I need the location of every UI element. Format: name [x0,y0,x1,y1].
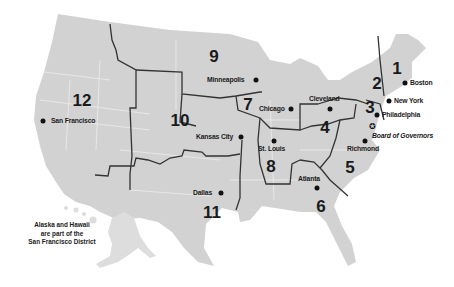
city-dot-dallas [219,191,224,196]
city-label-boston: Boston [410,79,432,87]
city-label-minneapolis: Minneapolis [207,76,244,84]
district-number-7: 7 [243,96,252,113]
star-icon: ✪ [369,123,376,131]
city-label-kansas-city: Kansas City [196,133,233,141]
city-label-atlanta: Atlanta [298,175,320,183]
city-dot-chicago [289,107,294,112]
city-dot-cleveland [328,107,333,112]
city-label-new-york: New York [394,97,423,105]
city-label-richmond: Richmond [347,145,379,153]
board-of-governors-label: Board of Governors [372,132,433,140]
city-label-st-louis: St. Louis [258,145,285,153]
city-dot-minneapolis [254,78,259,83]
district-number-6: 6 [316,198,325,215]
district-number-8: 8 [266,158,275,175]
city-dot-atlanta [315,186,320,191]
city-dot-philadelphia [375,113,380,118]
city-dot-boston [403,81,408,86]
city-dot-kansas-city [239,135,244,140]
district-number-1: 1 [392,60,401,77]
district-number-12: 12 [73,92,92,109]
city-dot-new-york [387,99,392,104]
district-number-2: 2 [372,75,381,92]
district-number-4: 4 [320,119,329,136]
city-label-philadelphia: Philadelphia [382,111,420,119]
note-line-3: San Francisco District [28,238,96,247]
city-dot-san-francisco [41,119,46,124]
district-number-3: 3 [365,99,374,116]
district-number-5: 5 [345,159,354,176]
city-label-chicago: Chicago [259,105,285,113]
district-number-9: 9 [209,48,218,65]
city-dot-richmond [363,139,368,144]
district-number-11: 11 [203,204,221,221]
federal-reserve-map: 1 2 3 4 5 6 7 8 9 10 11 12 Boston New Yo… [0,0,454,287]
alaska-hawaii-note: Alaska and Hawaii are part of the San Fr… [28,221,96,247]
city-label-cleveland: Cleveland [309,95,340,103]
district-number-10: 10 [171,112,190,129]
city-label-dallas: Dallas [193,189,212,197]
alaska [96,212,156,268]
city-dot-st-louis [272,139,277,144]
city-label-san-francisco: San Francisco [51,117,95,125]
